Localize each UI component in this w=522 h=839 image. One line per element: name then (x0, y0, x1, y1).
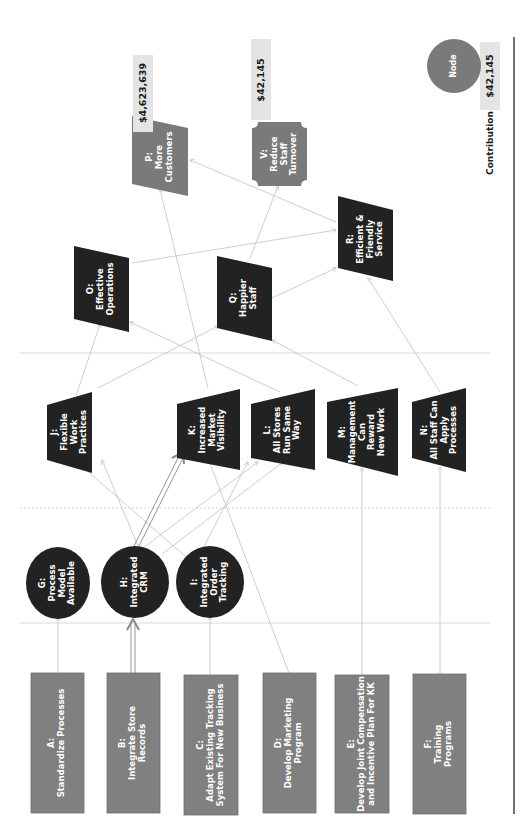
edge-o-r (132, 230, 336, 263)
input-label-d: D: Develop Marketing Program (274, 698, 303, 789)
input-boxes (31, 673, 466, 815)
contribution-value-p: $4,623,639 (138, 63, 149, 123)
business-outcome-nodes (74, 196, 393, 341)
node-label-o: O: Effective Operations (86, 263, 115, 316)
edge-j-o (76, 324, 100, 396)
legend-contribution-value: $42,145 (485, 54, 496, 97)
node-label-v: V: Reduce Staff Turnover (260, 133, 299, 176)
node-label-g: G: Process Model Available (38, 561, 77, 605)
legend-node-label: Node (449, 54, 458, 77)
node-label-i: I: Integrated Order Tracking (190, 557, 229, 608)
input-label-c: C: Adapt Existing Tracking System For Ne… (196, 684, 225, 807)
edge-m-q (272, 340, 358, 386)
node-label-m: M: Management Can Reward New Work (338, 401, 387, 464)
arrowhead-b-h (127, 619, 139, 630)
legend-contribution-label: Contribution (485, 111, 495, 175)
node-label-q: Q: Happier Staff (229, 279, 258, 317)
input-label-e: E: Develop Joint Compensation and Incent… (347, 676, 376, 811)
input-label-f: F: Training Programs (424, 703, 453, 786)
node-label-k: K: Increased Market Visibility (188, 407, 227, 454)
node-label-r: R: Efficient & Friendly Service (346, 214, 385, 264)
edge-n-r (368, 278, 440, 392)
edge-q-r (272, 268, 336, 298)
contribution-value-v: $42,145 (256, 58, 267, 101)
edge-h-j (102, 460, 138, 546)
input-label-b: B: Integrate Store Records (118, 706, 147, 780)
input-label-a: A: Standardize Processes (47, 689, 67, 798)
edge-k-p (160, 189, 208, 388)
node-label-j: J: Flexible Work Practices (50, 410, 89, 454)
edge-q-v (250, 186, 278, 258)
node-label-n: N: All Staff Can Apply Processes (420, 400, 459, 459)
node-label-l: L: All Stores Run Same Way (263, 406, 302, 454)
node-label-h: H: Integrated CRM (120, 557, 149, 608)
node-label-p: P: More Customers (145, 131, 174, 182)
